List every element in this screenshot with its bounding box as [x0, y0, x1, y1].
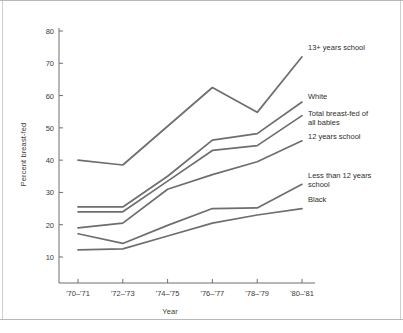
x-axis-tick-label: '72–'73 — [100, 289, 146, 298]
y-axis-tick-label: 20 — [32, 220, 54, 229]
y-axis-title: Percent breast-fed — [19, 110, 28, 200]
x-axis-tick-label: '78–'79 — [234, 289, 280, 298]
x-axis-tick-label: '70–'71 — [55, 289, 101, 298]
series-line-0 — [78, 57, 302, 165]
axes-group — [59, 28, 315, 283]
y-axis-tick-label: 30 — [32, 188, 54, 197]
y-axis-tick-label: 70 — [32, 59, 54, 68]
series-label-2: Total breast-fed of all babies — [308, 110, 400, 127]
x-axis-tick-label: '80–'81 — [279, 289, 325, 298]
series-label-5: Black — [308, 196, 400, 205]
y-axis-tick-label: 60 — [32, 91, 54, 100]
series-line-5 — [78, 209, 302, 250]
x-axis-title: Year — [0, 307, 340, 316]
x-axis-tick-label: '74–'75 — [145, 289, 191, 298]
series-label-3: 12 years school — [308, 133, 400, 142]
series-lines-group — [78, 57, 302, 250]
y-axis-tick-label: 40 — [32, 156, 54, 165]
x-axis-tick-label: '76–'77 — [189, 289, 235, 298]
series-line-1 — [78, 102, 302, 207]
series-line-3 — [78, 141, 302, 228]
y-axis-tick-label: 80 — [32, 27, 54, 36]
series-label-0: 13+ years school — [308, 44, 400, 53]
chart-figure: 1020304050607080 '70–'71'72–'73'74–'75'7… — [0, 0, 403, 333]
y-axis-tick-label: 10 — [32, 253, 54, 262]
y-axis-tick-label: 50 — [32, 123, 54, 132]
series-label-1: White — [308, 93, 400, 102]
series-label-4: Less than 12 years school — [308, 172, 400, 189]
